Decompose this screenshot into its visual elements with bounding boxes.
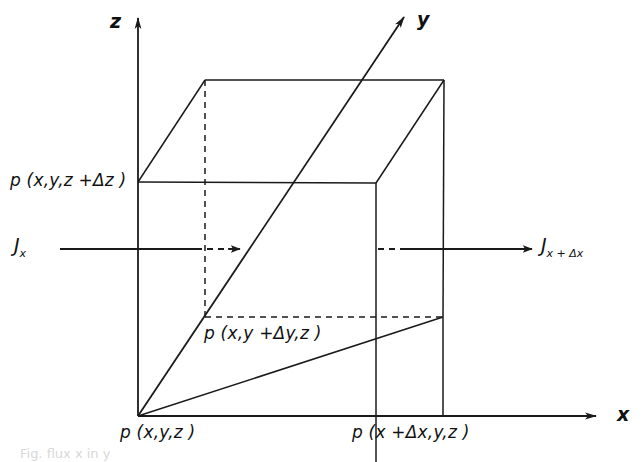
- label-p-top-left: p (x,y,z +Δz ): [10, 172, 126, 189]
- cube-edge-back-right-vertical: [443, 80, 444, 317]
- label-p-mid: p (x,y +Δy,z ): [204, 325, 322, 342]
- axis-label-y: y: [417, 10, 429, 29]
- cube-edge-top-right-diagonal: [376, 80, 444, 183]
- axis-y: [138, 17, 404, 416]
- axis-label-z: z: [110, 12, 121, 31]
- control-volume-diagram: [0, 0, 644, 462]
- label-p-x-delta: p (x +Δx,y,z ): [352, 424, 470, 441]
- cube-edge-top-left-diagonal: [138, 80, 205, 182]
- figure-root: z y x p (x,y,z +Δz ) p (x,y +Δy,z ) p (x…: [0, 0, 644, 462]
- flux-in-label: Jx: [14, 236, 26, 259]
- label-p-origin: p (x,y,z ): [120, 424, 195, 441]
- flux-in-subscript: x: [20, 247, 27, 260]
- flux-out-label: Jx + Δx: [541, 236, 583, 259]
- cube-edge-front-top: [138, 182, 376, 183]
- caption-fragment: Fig. flux x in y: [0, 446, 644, 462]
- axis-label-x: x: [617, 405, 629, 424]
- flux-out-subscript: x + Δx: [547, 247, 584, 260]
